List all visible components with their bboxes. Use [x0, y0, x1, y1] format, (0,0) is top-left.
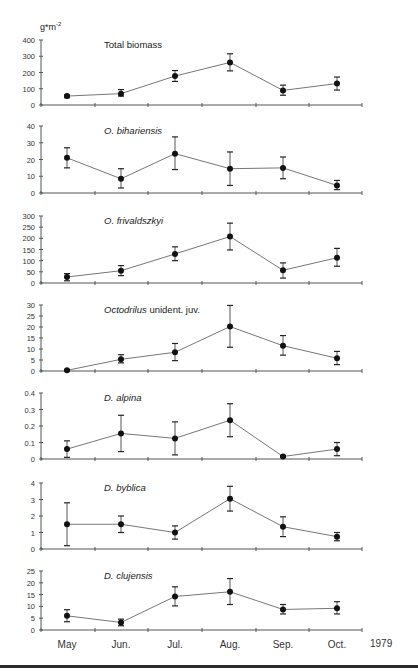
data-point — [227, 166, 233, 172]
data-point — [118, 91, 124, 97]
y-tick-label: 15 — [27, 334, 35, 343]
y-tick-label: 25 — [27, 312, 35, 321]
y-tick-label: 20 — [27, 323, 35, 332]
x-category-label: Jun. — [112, 639, 131, 650]
data-line — [67, 499, 337, 537]
panel-title: Octodrilus unident. juv. — [104, 304, 200, 315]
y-tick-label: 0 — [31, 279, 35, 288]
y-unit-label: g*m-2 — [40, 21, 61, 32]
x-category-label: Sep. — [273, 639, 294, 650]
panel-2: 010203040O. bihariensis — [27, 122, 362, 198]
y-tick-label: 0.3 — [25, 406, 35, 415]
data-point — [227, 234, 233, 240]
y-tick-label: 4 — [31, 479, 35, 488]
year-label: 1979 — [370, 638, 393, 649]
y-tick-label: 30 — [27, 301, 35, 310]
y-tick-label: 0 — [31, 189, 35, 198]
data-point — [280, 267, 286, 273]
y-tick-label: 300 — [22, 212, 35, 221]
data-point — [227, 417, 233, 423]
y-tick-label: 0 — [31, 626, 35, 635]
data-point — [64, 613, 70, 619]
y-tick-label: 30 — [27, 139, 35, 148]
chart-panels: 0100200300400Total biomass010203040O. bi… — [0, 0, 418, 672]
data-line — [67, 62, 337, 96]
data-line — [67, 237, 337, 277]
panel-title: Total biomass — [104, 39, 162, 50]
y-tick-label: 0.2 — [25, 422, 35, 431]
x-category-label: Aug. — [220, 639, 241, 650]
data-point — [280, 524, 286, 530]
data-line — [67, 327, 337, 371]
panel-title: D. clujensis — [104, 570, 153, 581]
data-point — [64, 446, 70, 452]
data-point — [334, 534, 340, 540]
y-tick-label: 20 — [27, 579, 35, 588]
y-tick-label: 0 — [31, 545, 35, 554]
y-tick-label: 200 — [22, 234, 35, 243]
y-tick-label: 100 — [22, 85, 35, 94]
panel-1: 0100200300400Total biomass — [22, 36, 362, 110]
data-point — [118, 521, 124, 527]
data-point — [334, 182, 340, 188]
figure: g*m-2 0100200300400Total biomass01020304… — [0, 0, 418, 672]
panel-4: 051015202530Octodrilus unident. juv. — [27, 301, 362, 376]
x-category-label: May — [58, 639, 77, 650]
y-tick-label: 25 — [27, 567, 35, 576]
data-point — [334, 81, 340, 87]
panel-title: O. frivaldszkyi — [104, 215, 164, 226]
bottom-rule — [0, 665, 418, 668]
y-tick-label: 300 — [22, 52, 35, 61]
y-tick-label: 10 — [27, 345, 35, 354]
data-point — [64, 155, 70, 161]
panel-title: O. bihariensis — [104, 125, 162, 136]
panel-6: 01234D. byblica — [31, 479, 362, 554]
data-point — [334, 355, 340, 361]
y-tick-label: 20 — [27, 156, 35, 165]
data-point — [280, 606, 286, 612]
data-point — [280, 454, 286, 460]
y-tick-label: 3 — [31, 496, 35, 505]
data-point — [280, 165, 286, 171]
y-tick-label: 250 — [22, 223, 35, 232]
y-tick-label: 5 — [31, 614, 35, 623]
panel-title: D. alpina — [104, 392, 142, 403]
data-point — [118, 619, 124, 625]
y-tick-label: 200 — [22, 69, 35, 78]
data-point — [172, 530, 178, 536]
data-point — [280, 343, 286, 349]
y-tick-label: 0.4 — [25, 389, 35, 398]
y-tick-label: 1 — [31, 529, 35, 538]
data-point — [227, 589, 233, 595]
y-tick-label: 10 — [27, 602, 35, 611]
y-tick-label: 50 — [27, 268, 35, 277]
x-category-label: Oct. — [328, 639, 346, 650]
y-tick-label: 40 — [27, 122, 35, 131]
data-point — [118, 430, 124, 436]
y-tick-label: 0 — [31, 367, 35, 376]
data-point — [227, 59, 233, 65]
data-point — [118, 176, 124, 182]
data-point — [334, 255, 340, 261]
data-point — [334, 446, 340, 452]
data-point — [64, 521, 70, 527]
data-line — [67, 420, 337, 456]
panel-3: 050100150200250300O. frivaldszkyi — [22, 212, 362, 288]
y-tick-label: 10 — [27, 172, 35, 181]
data-point — [118, 268, 124, 274]
data-point — [64, 93, 70, 99]
data-point — [280, 87, 286, 93]
panel-7: 0510152025D. clujensis — [27, 567, 362, 635]
y-tick-label: 0 — [31, 101, 35, 110]
y-tick-label: 400 — [22, 36, 35, 45]
data-point — [172, 593, 178, 599]
data-line — [67, 592, 337, 623]
y-tick-label: 15 — [27, 591, 35, 600]
data-point — [227, 496, 233, 502]
y-tick-label: 2 — [31, 512, 35, 521]
data-point — [172, 349, 178, 355]
data-point — [334, 605, 340, 611]
y-tick-label: 100 — [22, 257, 35, 266]
data-point — [172, 151, 178, 157]
y-tick-label: 0 — [31, 455, 35, 464]
